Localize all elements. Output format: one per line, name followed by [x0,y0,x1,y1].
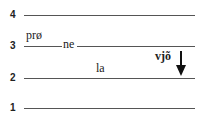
level-line-2 [24,78,195,79]
level-label-1: 1 [10,103,16,113]
syllable-vjo: vjõ [155,50,171,62]
syllable-pro: prø [26,29,42,41]
level-line-1 [24,108,195,109]
level-line-3-segment-a [24,46,62,47]
level-label-4: 4 [10,10,16,20]
syllable-la: la [96,62,105,74]
level-label-2: 2 [10,73,16,83]
level-label-3: 3 [10,41,16,51]
level-line-4 [24,15,195,16]
syllable-ne: ne [63,38,74,50]
level-line-3-segment-b [77,46,195,47]
